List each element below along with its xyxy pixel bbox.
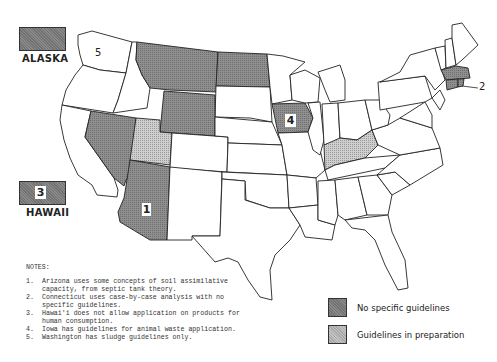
connecticut-note-number: 2 (479, 81, 485, 92)
note-item: 5.Washington has sludge guidelines only. (26, 334, 256, 342)
state-mississippi (318, 180, 338, 225)
note-item: 1.Arizona uses some concepts of soil ass… (26, 278, 256, 294)
state-wisconsin (290, 70, 320, 103)
state-wyoming (160, 91, 215, 136)
hawaii-label: HAWAII (26, 207, 69, 218)
state-arkansas (287, 175, 318, 208)
note-item: 3.Hawai'i does not allow application on … (26, 310, 256, 326)
state-new-jersey (432, 90, 445, 110)
state-new-mexico (167, 167, 222, 240)
legend: No specific guidelines Guidelines in pre… (328, 298, 464, 352)
arizona-note-number: 1 (142, 203, 151, 216)
alaska-label: ALASKA (22, 53, 68, 64)
state-colorado (170, 133, 228, 172)
state-maine (452, 23, 478, 65)
state-montana (136, 42, 218, 92)
state-north-dakota (216, 52, 270, 87)
washington-note-number: 5 (95, 47, 101, 58)
state-kansas (227, 143, 287, 175)
hawaii-note-number: 3 (35, 186, 46, 199)
note-item: 4.Iowa has guidelines for animal waste a… (26, 326, 256, 334)
alaska-inset (19, 27, 66, 51)
legend-item-in-preparation: Guidelines in preparation (328, 325, 464, 344)
state-michigan (318, 65, 345, 102)
legend-swatch-light (328, 325, 347, 344)
legend-item-no-guidelines: No specific guidelines (328, 298, 464, 317)
note-item: 2.Connecticut uses case-by-case analysis… (26, 294, 256, 310)
state-florida (345, 215, 408, 290)
notes-block: NOTES: 1.Arizona uses some concepts of s… (26, 264, 256, 342)
iowa-note-number: 4 (285, 114, 296, 127)
state-connecticut (446, 79, 458, 90)
notes-title: NOTES: (26, 264, 256, 272)
state-south-dakota (215, 86, 272, 122)
legend-swatch-dark (328, 298, 347, 317)
